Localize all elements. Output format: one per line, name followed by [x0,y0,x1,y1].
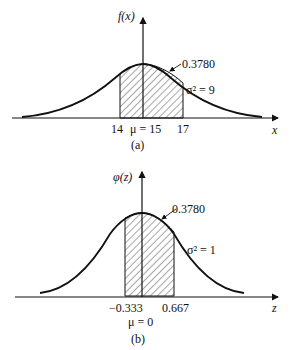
variance-label-b: σ² = 1 [187,244,216,256]
tick-label-14: 14 [111,123,123,135]
chart-canvas [0,0,290,350]
x-axis-label-b: z [272,302,277,314]
caption-b: (b) [131,333,145,345]
tick-label-mu-0: μ = 0 [128,316,153,328]
y-axis-label-b: φ(z) [113,171,132,183]
shaded-region-a [120,64,183,118]
tick-label-neg-0333: −0.333 [109,302,143,314]
caption-a: (a) [131,139,144,151]
tick-label-0667: 0.667 [162,302,189,314]
tick-label-mu-15: μ = 15 [130,123,161,135]
area-pointer-a [170,64,181,71]
variance-label-a: σ² = 9 [186,84,215,96]
area-label-b: 0.3780 [172,203,205,215]
area-label-a: 0.3780 [182,58,215,70]
x-axis-label-a: x [272,124,277,136]
tick-label-17: 17 [177,123,189,135]
panel-b [15,172,278,297]
panel-a [12,18,278,118]
y-axis-label-a: f(x) [118,10,135,22]
